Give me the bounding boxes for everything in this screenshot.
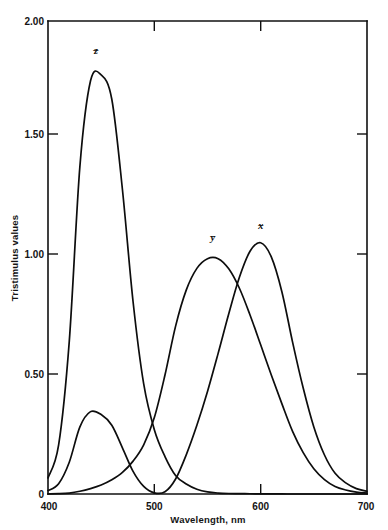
x-tick-label-400: 400 <box>41 501 58 512</box>
x-tick-label-700: 700 <box>358 501 375 512</box>
curve-label-x-bar: _ x <box>257 215 264 232</box>
curve-label-y-letter: y <box>210 232 216 243</box>
y-tick-label-0-50: 0.50 <box>25 369 45 380</box>
y-tick-label-1-00: 1.00 <box>25 249 45 260</box>
tristimulus-chart: 2.00 1.50 1.00 0.50 0 400 500 600 700 Wa… <box>0 0 388 530</box>
x-tick-label-600: 600 <box>252 501 269 512</box>
y-tick-label-2-00: 2.00 <box>25 16 45 27</box>
y-axis-title: Tristimulus values <box>9 215 20 302</box>
curve-label-x-letter: x <box>257 220 263 231</box>
curve-label-z-letter: z <box>93 45 98 56</box>
x-tick-label-500: 500 <box>146 501 163 512</box>
x-axis-title: Wavelength, nm <box>170 514 245 525</box>
y-tick-label-0: 0 <box>38 489 44 500</box>
y-tick-label-1-50: 1.50 <box>25 129 45 140</box>
